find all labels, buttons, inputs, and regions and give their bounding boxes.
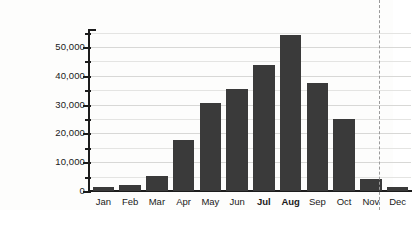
y-axis-tick-label: 50,000 xyxy=(55,42,85,52)
y-axis-tick-label: 40,000 xyxy=(55,71,85,81)
bar-sep xyxy=(307,83,328,191)
bar-jul xyxy=(253,65,274,191)
page-crop-dashed-line xyxy=(379,0,380,210)
x-axis-tick-label-nov: Nov xyxy=(358,196,385,208)
bar-dec xyxy=(387,187,408,191)
bar-may xyxy=(200,103,221,191)
bar-series xyxy=(90,30,411,191)
x-axis-tick-label-feb: Feb xyxy=(117,196,144,208)
bar-aug xyxy=(280,35,301,191)
y-axis-tick-label: 30,000 xyxy=(55,100,85,110)
bar-feb xyxy=(119,185,140,191)
x-axis-tick-label-aug: Aug xyxy=(277,196,304,208)
x-axis-tick-label-apr: Apr xyxy=(170,196,197,208)
bar-oct xyxy=(333,119,354,191)
monthly-bar-chart: 010,00020,00030,00040,00050,000 JanFebMa… xyxy=(40,16,416,226)
x-axis-tick-label-may: May xyxy=(197,196,224,208)
x-axis-tick-label-dec: Dec xyxy=(384,196,411,208)
y-axis-tick-label: 10,000 xyxy=(55,157,85,167)
x-axis-tick-label-jun: Jun xyxy=(224,196,251,208)
bar-jan xyxy=(93,187,114,191)
bar-jun xyxy=(226,89,247,191)
x-axis-tick-label-mar: Mar xyxy=(144,196,171,208)
x-axis-tick-label-jul: Jul xyxy=(251,196,278,208)
x-axis-tick-label-oct: Oct xyxy=(331,196,358,208)
x-axis-tick-label-sep: Sep xyxy=(304,196,331,208)
y-axis-tick-label: 20,000 xyxy=(55,128,85,138)
y-axis-tick-label: 0 xyxy=(80,186,85,196)
x-axis-tick-label-jan: Jan xyxy=(90,196,117,208)
bar-apr xyxy=(173,140,194,191)
bar-mar xyxy=(146,176,167,191)
